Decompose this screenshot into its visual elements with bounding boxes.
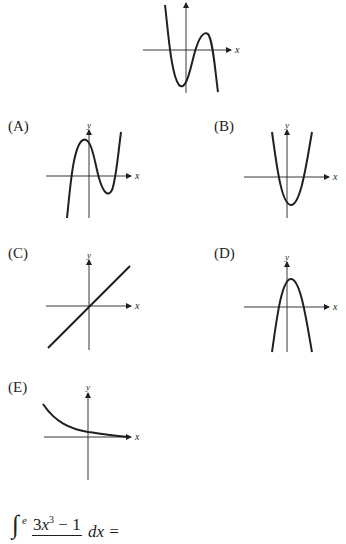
- differential: dx =: [88, 522, 120, 542]
- integrand-fraction: 3x3 − 1: [32, 514, 82, 536]
- c-x-label: x: [134, 300, 140, 311]
- integrand-numerator: 3x3 − 1: [32, 514, 82, 536]
- page: x y x y x y x: [0, 0, 346, 544]
- numerator-rest: − 1: [54, 515, 81, 534]
- a-y-label: y: [86, 120, 91, 130]
- c-y-label: y: [86, 250, 91, 260]
- stem-cubic-curve: [165, 5, 218, 92]
- a-cubic-curve: [67, 132, 121, 218]
- stem-graph: x: [143, 3, 240, 93]
- b-parabola-curve: [272, 132, 312, 205]
- e-exponential-curve: [43, 404, 129, 437]
- b-y-label: y: [284, 120, 289, 130]
- choice-b-label[interactable]: (B): [214, 119, 234, 134]
- numerator-coefficient: 3: [33, 515, 42, 534]
- choice-c-graph: y x: [46, 250, 140, 350]
- stem-x-label: x: [234, 44, 240, 55]
- choice-a-label[interactable]: (A): [8, 119, 29, 134]
- choice-a-graph: y x: [46, 120, 140, 218]
- a-x-label: x: [134, 170, 140, 181]
- d-y-label: y: [284, 252, 289, 262]
- choice-d-graph: y x: [244, 252, 338, 352]
- choice-d-label[interactable]: (D): [214, 246, 235, 261]
- numerator-variable: x: [42, 515, 50, 534]
- d-parabola-curve: [272, 279, 312, 352]
- e-y-label: y: [85, 382, 90, 392]
- d-x-label: x: [332, 301, 338, 312]
- integral-sign: ∫: [12, 510, 19, 540]
- choice-b-graph: y x: [244, 120, 338, 218]
- integral-upper-limit: e: [22, 514, 27, 526]
- graphs-canvas: x y x y x y x: [0, 0, 346, 544]
- choice-e-graph: y x: [43, 382, 140, 480]
- e-x-label: x: [134, 431, 140, 442]
- choice-c-label[interactable]: (C): [8, 246, 28, 261]
- choice-e-label[interactable]: (E): [8, 380, 27, 395]
- b-x-label: x: [332, 171, 338, 182]
